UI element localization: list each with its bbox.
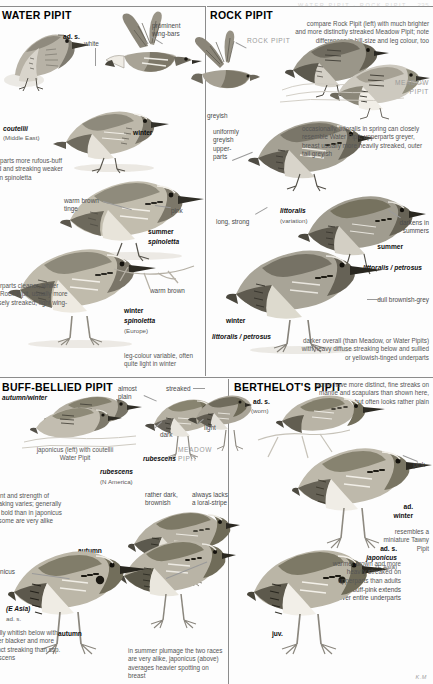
leader-white [95, 48, 96, 66]
label-almost-plain: almost plain [118, 385, 146, 402]
label-darkens-in-summers: darkens in summers [379, 219, 429, 235]
label-winter-2: winter [124, 307, 143, 315]
note-littoralis: occasionally, littoralis in spring can c… [302, 125, 430, 159]
label-berthelot-ad-s-worn: (worn) [251, 407, 269, 415]
note-whitish-below: usually whitish below with bolder blacke… [0, 629, 62, 663]
label-white: white [84, 40, 99, 48]
label-rubescens-group: rubescens [100, 468, 133, 476]
artist-signature: K.M [415, 674, 427, 680]
label-light: light [204, 424, 216, 432]
divider-top-left [0, 6, 205, 7]
note-japonicus-coutellii: japonicus (left) with coutellii Water Pi… [36, 446, 114, 463]
label-berthelot-ad-s: ad. s. [253, 398, 270, 406]
label-japonicus-region: ad. s. [6, 615, 21, 623]
label-berthelot-ad-winter: ad. winter [394, 502, 413, 520]
label-berthelot-pink: pink [413, 461, 425, 469]
divider-top-right [207, 6, 433, 7]
label-juv: juv. [272, 630, 283, 638]
label-water-ad-s: ad. s. [63, 33, 80, 41]
label-rubescens-region: (N America) [100, 478, 133, 486]
label-dull-brownish-grey: dull brownish-grey [377, 296, 429, 304]
label-greyish: greyish [207, 112, 228, 120]
callout-meadow-pipit-buff: MEADOW PIPIT [178, 445, 212, 463]
label-long-strong: long, strong [216, 218, 249, 226]
label-dark: dark [160, 431, 172, 439]
label-coutellii-region: (Middle East) [3, 134, 39, 142]
label-uniformly-greyish-upperparts: uniformly greyish upper- parts [213, 128, 239, 162]
callout-rock-pipit: ROCK PIPIT [247, 37, 290, 45]
note-streaking-varies: extent and strength of streaking varies;… [0, 492, 72, 526]
label-spinoletta-winter: spinoletta [124, 317, 155, 325]
panel-title-rock-pipit: ROCK PIPIT [210, 9, 273, 21]
label-large-dark-patch: japonicus [0, 568, 32, 576]
panel-title-water-pipit: WATER PIPIT [2, 9, 72, 21]
note-darker-overall: darker overall (than Meadow, or Water Pi… [299, 337, 429, 362]
label-warm-brown: warm brown [150, 287, 185, 295]
label-rubescens-bird: rubescens [143, 455, 176, 463]
label-littoralis-petrosus-winter: littoralis / petrosus [212, 333, 271, 341]
note-juv: warmer brown and more heavily streaked o… [319, 560, 401, 585]
folio-number: 235 [417, 2, 429, 8]
note-leg-colour: leg-colour variable, often quite light i… [124, 352, 204, 369]
label-japonicus: (E Asia) [6, 605, 30, 613]
label-autumn-winter: autumn/winter [2, 394, 47, 402]
label-streaked: streaked [166, 385, 191, 393]
label-winter-rock: winter [226, 317, 245, 325]
label-pink: pink [171, 207, 183, 215]
field-guide-page: WATER PIPIT · ROCK PIPIT 235 WATER PIPIT [0, 0, 433, 684]
label-winter: winter [133, 129, 152, 137]
running-head: WATER PIPIT · ROCK PIPIT [298, 2, 407, 8]
label-warm-brown-tinge: warm brown tinge [64, 197, 104, 213]
label-coutellii: coutellii [3, 125, 28, 133]
label-summer: summer [148, 228, 174, 236]
divider-horizontal-mid [0, 377, 433, 378]
callout-meadow-pipit: MEADOW PIPIT [395, 78, 429, 96]
bird-water-pipit-winter-coutellii [52, 98, 172, 172]
leader-long-strong [255, 207, 268, 215]
label-spinoletta-region: (Europe) [124, 327, 148, 335]
note-summer-plumage: in summer plumage the two races are very… [128, 647, 228, 681]
note-underparts: underparts cleaner, whiter than Rock Pip… [0, 282, 70, 316]
leader-dull-brownish-grey [367, 299, 381, 300]
